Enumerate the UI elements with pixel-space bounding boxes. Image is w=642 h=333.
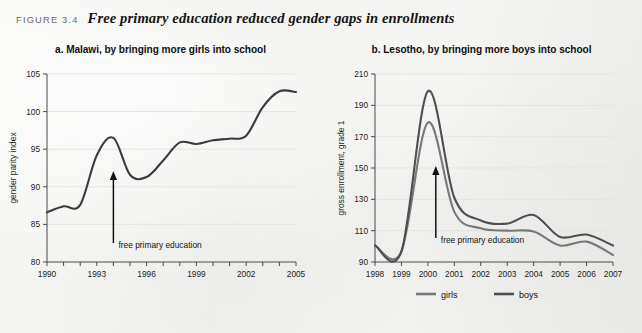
annotation-label: free primary education bbox=[118, 240, 202, 250]
x-tick-label: 2001 bbox=[445, 269, 464, 279]
legend-label-boys: boys bbox=[519, 290, 539, 300]
annotation-label: free primary education bbox=[441, 235, 525, 245]
x-tick-label: 1999 bbox=[392, 269, 411, 279]
annotation-arrow-head bbox=[110, 171, 117, 180]
x-tick-label: 1996 bbox=[137, 269, 156, 279]
panel-malawi: a. Malawi, by bringing more girls into s… bbox=[0, 38, 321, 333]
annotation-arrow-head bbox=[432, 166, 439, 175]
legend-label-girls: girls bbox=[441, 290, 458, 300]
x-tick-label: 2004 bbox=[524, 269, 543, 279]
panel-lesotho: b. Lesotho, by bringing more boys into s… bbox=[321, 38, 642, 333]
y-tick-label: 95 bbox=[31, 144, 41, 154]
x-tick-label: 1999 bbox=[187, 269, 206, 279]
x-tick-label: 2002 bbox=[237, 269, 256, 279]
panel-b-title: b. Lesotho, by bringing more boys into s… bbox=[321, 44, 642, 55]
y-axis-title: gross enrollment, grade 1 bbox=[336, 120, 346, 215]
y-tick-label: 80 bbox=[31, 257, 41, 267]
x-tick-label: 2005 bbox=[551, 269, 570, 279]
x-tick-label: 1993 bbox=[88, 269, 107, 279]
x-tick-label: 2003 bbox=[498, 269, 517, 279]
y-tick-label: 170 bbox=[354, 132, 368, 142]
figure-title: Free primary education reduced gender ga… bbox=[88, 10, 455, 27]
y-tick-label: 150 bbox=[354, 163, 368, 173]
chart-malawi: 80859095100105199019931996199920022005ge… bbox=[0, 38, 321, 333]
x-tick-label: 2002 bbox=[472, 269, 491, 279]
y-axis-title: gender parity index bbox=[8, 132, 18, 204]
y-tick-label: 100 bbox=[26, 107, 40, 117]
chart-panels: a. Malawi, by bringing more girls into s… bbox=[0, 38, 642, 333]
y-tick-label: 90 bbox=[359, 257, 369, 267]
chart-lesotho: 9011013015017019021019981999200020012002… bbox=[321, 38, 642, 333]
y-tick-label: 105 bbox=[26, 69, 40, 79]
x-tick-label: 2007 bbox=[604, 269, 623, 279]
figure-number: FIGURE 3.4 bbox=[16, 14, 79, 25]
panel-a-title: a. Malawi, by bringing more girls into s… bbox=[0, 44, 321, 55]
y-tick-label: 130 bbox=[354, 194, 368, 204]
x-tick-label: 2005 bbox=[287, 269, 306, 279]
x-tick-label: 1998 bbox=[366, 269, 385, 279]
y-tick-label: 110 bbox=[355, 226, 369, 236]
x-tick-label: 2006 bbox=[577, 269, 596, 279]
x-tick-label: 2000 bbox=[419, 269, 438, 279]
y-tick-label: 85 bbox=[31, 219, 41, 229]
y-tick-label: 210 bbox=[354, 69, 368, 79]
y-tick-label: 190 bbox=[354, 100, 368, 110]
figure-header: FIGURE 3.4 Free primary education reduce… bbox=[16, 10, 632, 27]
series-line-gender-parity-index bbox=[47, 90, 296, 212]
y-tick-label: 90 bbox=[31, 182, 41, 192]
x-tick-label: 1990 bbox=[38, 269, 57, 279]
